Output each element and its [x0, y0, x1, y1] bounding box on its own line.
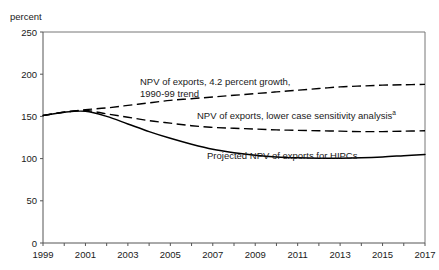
- footnote-marker-a: a: [392, 109, 396, 116]
- x-tick-label: 2005: [160, 249, 181, 260]
- x-tick-label: 2015: [372, 249, 393, 260]
- x-tick-group: 1999200120032005200720092011201320152017: [32, 243, 435, 260]
- y-tick-label: 150: [21, 111, 37, 122]
- plot-frame: [43, 32, 425, 243]
- annotation-growth-line2: 1990-99 trend: [140, 88, 199, 99]
- x-tick-label: 2009: [245, 249, 266, 260]
- y-tick-label: 100: [21, 153, 37, 164]
- y-tick-label: 200: [21, 69, 37, 80]
- annotation-lower-case: NPV of exports, lower case sensitivity a…: [197, 110, 396, 122]
- y-tick-label: 250: [21, 27, 37, 38]
- x-tick-label: 1999: [32, 249, 53, 260]
- x-tick-label: 2013: [330, 249, 351, 260]
- annotation-lower-case-text: NPV of exports, lower case sensitivity a…: [197, 110, 392, 121]
- plot-area: 050100150200250 199920012003200520072009…: [0, 0, 439, 270]
- x-tick-label: 2001: [75, 249, 96, 260]
- annotation-growth-trend: NPV of exports, 4.2 percent growth, 1990…: [140, 76, 291, 99]
- annotation-hipc-text: Projected NPV of exports for HIPCs: [207, 150, 357, 161]
- x-tick-label: 2017: [414, 249, 435, 260]
- y-tick-group: 050100150200250: [21, 27, 43, 249]
- annotation-hipc: Projected NPV of exports for HIPCs: [207, 150, 357, 162]
- y-tick-label: 0: [32, 238, 37, 249]
- x-tick-label: 2003: [117, 249, 138, 260]
- x-tick-label: 2007: [202, 249, 223, 260]
- y-tick-label: 50: [26, 195, 37, 206]
- annotation-growth-line1: NPV of exports, 4.2 percent growth,: [140, 76, 291, 87]
- chart-figure: percent 050100150200250 1999200120032005…: [0, 0, 439, 270]
- x-tick-label: 2011: [287, 249, 307, 260]
